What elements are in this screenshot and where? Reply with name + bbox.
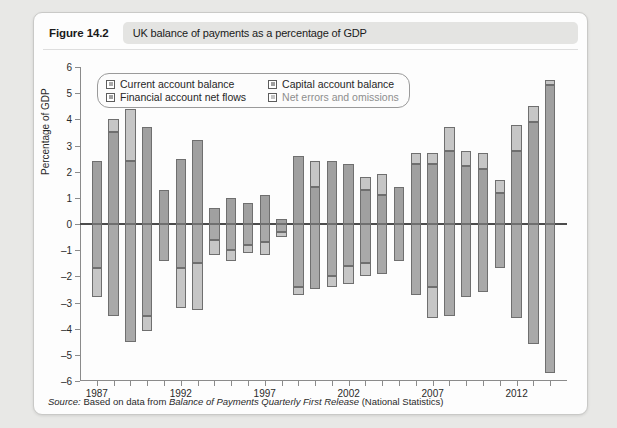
y-tick-label: –2 — [61, 271, 72, 282]
bar-segment — [528, 106, 538, 122]
x-tick — [349, 381, 350, 386]
bar — [108, 67, 118, 381]
bar — [528, 67, 538, 381]
bar-segment — [411, 164, 421, 224]
bar-segment — [511, 224, 521, 318]
y-axis-title: Percentage of GDP — [40, 143, 51, 159]
bar-segment — [276, 224, 286, 232]
bar-segment — [327, 276, 337, 286]
bar — [209, 67, 219, 381]
legend-swatch-fill — [109, 82, 113, 86]
bar-segment — [92, 224, 102, 268]
x-tick — [198, 381, 199, 386]
chart-legend: Current account balanceCapital account b… — [97, 73, 410, 108]
bar-segment — [461, 166, 471, 224]
bar-segment — [142, 224, 152, 316]
x-tick — [231, 381, 232, 386]
bar — [411, 67, 421, 381]
legend-swatch-icon — [106, 93, 115, 102]
bar — [360, 67, 370, 381]
bar — [478, 67, 488, 381]
y-tick — [75, 146, 80, 147]
y-tick — [75, 67, 80, 68]
y-tick — [75, 303, 80, 304]
bar-segment — [192, 263, 202, 310]
bar-segment — [209, 208, 219, 224]
y-tick-label: 3 — [66, 140, 72, 151]
bar-segment — [545, 85, 555, 224]
y-axis-title-text: Percentage of GDP — [40, 159, 51, 175]
x-tick — [164, 381, 165, 386]
bar-segment — [192, 224, 202, 263]
bar-segment — [293, 287, 303, 295]
bar — [159, 67, 169, 381]
bar-segment — [243, 224, 253, 245]
x-tick — [382, 381, 383, 386]
y-tick-label: 5 — [66, 88, 72, 99]
bar-segment — [478, 169, 488, 224]
x-tick — [365, 381, 366, 386]
bar-segment — [495, 180, 505, 193]
bar-segment — [142, 316, 152, 332]
source-text-before: Based on data from — [81, 396, 169, 407]
x-tick — [97, 381, 98, 386]
bar-segment — [108, 224, 118, 316]
y-tick — [75, 329, 80, 330]
x-tick — [282, 381, 283, 386]
bar-segment — [528, 122, 538, 224]
bar-segment — [159, 224, 169, 261]
y-tick — [75, 172, 80, 173]
legend-item: Current account balance — [106, 78, 246, 90]
bar-segment — [427, 224, 437, 287]
bar-segment — [226, 198, 236, 224]
y-tick-label: –6 — [61, 376, 72, 387]
bar-segment — [360, 263, 370, 276]
bar-segment — [444, 224, 454, 316]
x-tick — [248, 381, 249, 386]
bar-segment — [495, 224, 505, 268]
bar-segment — [310, 224, 320, 289]
bar-segment — [260, 242, 270, 255]
bar-segment — [394, 187, 404, 224]
y-tick-label: –4 — [61, 323, 72, 334]
bar-segment — [427, 164, 437, 224]
bar-segment — [478, 224, 488, 292]
bar — [444, 67, 454, 381]
bar-segment — [108, 132, 118, 224]
bar — [176, 67, 186, 381]
bar — [343, 67, 353, 381]
bar-segment — [461, 224, 471, 297]
bar-segment — [176, 159, 186, 224]
bar-segment — [411, 153, 421, 163]
bar-segment — [377, 174, 387, 195]
bar-segment — [176, 268, 186, 307]
x-tick — [265, 381, 266, 386]
x-tick — [466, 381, 467, 386]
legend-swatch-fill — [271, 95, 275, 99]
legend-item: Financial account net flows — [106, 91, 246, 103]
source-text-after: (National Statistics) — [359, 396, 443, 407]
bar-segment — [276, 232, 286, 237]
y-tick — [75, 93, 80, 94]
x-tick — [130, 381, 131, 386]
x-tick — [298, 381, 299, 386]
bar-segment — [260, 224, 270, 242]
bar — [394, 67, 404, 381]
bar-segment — [545, 80, 555, 85]
figure-title: UK balance of payments as a percentage o… — [133, 27, 367, 39]
legend-swatch-icon — [106, 80, 115, 89]
bar-segment — [343, 266, 353, 284]
bar-segment — [327, 224, 337, 276]
bar — [427, 67, 437, 381]
x-tick — [416, 381, 417, 386]
bar-segment — [243, 245, 253, 253]
y-tick — [75, 198, 80, 199]
bar-segment — [260, 195, 270, 224]
source-prefix: Source: — [48, 396, 81, 407]
bar-segment — [343, 224, 353, 266]
bar — [226, 67, 236, 381]
y-tick — [75, 355, 80, 356]
x-tick — [315, 381, 316, 386]
legend-label: Current account balance — [120, 78, 234, 90]
bar-segment — [159, 190, 169, 224]
